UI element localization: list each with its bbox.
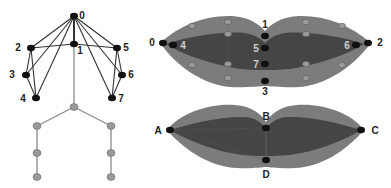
top-lip-label-2: 2 <box>377 37 383 48</box>
top-lip-point-7 <box>261 61 269 68</box>
top-lip-point-1 <box>261 33 269 40</box>
skeleton-label-5: 5 <box>123 42 129 53</box>
bottom-lip-point-D <box>262 157 270 164</box>
skeleton-node-0 <box>70 13 78 19</box>
top-lip-point-5 <box>261 45 269 52</box>
bottom-lip-point-A <box>166 127 174 134</box>
skeleton-edge <box>26 48 31 75</box>
skeleton-node-hip <box>70 104 78 111</box>
top-lip-gray-point <box>188 23 195 29</box>
top-lip-point-2 <box>364 40 372 47</box>
bottom-lip-point-C <box>357 127 365 134</box>
top-lip-label-3: 3 <box>262 86 268 97</box>
top-lip-gray-point <box>302 61 309 67</box>
skeleton-node-r-foot <box>107 174 115 181</box>
skeleton-node-l-hip <box>33 123 41 130</box>
top-lip-label-6: 6 <box>344 40 350 51</box>
top-lip-gray-point <box>338 23 345 29</box>
skeleton-label-0: 0 <box>79 10 85 21</box>
skeleton-node-6 <box>118 72 126 78</box>
skeleton-lower-nodes <box>33 104 115 181</box>
skeleton-node-l-foot <box>33 174 41 181</box>
skeleton-edge <box>37 107 74 126</box>
skeleton-node-l-knee <box>33 150 41 157</box>
skeleton-label-1: 1 <box>77 45 83 56</box>
bottom-lip-point-B <box>262 125 270 132</box>
top-lip-point-0 <box>159 40 167 47</box>
top-lip-label-5: 5 <box>253 43 259 54</box>
bottom-lip-label-D: D <box>262 169 269 180</box>
top-lip-gray-point <box>224 75 231 81</box>
top-lip-label-0: 0 <box>149 37 155 48</box>
skeleton-label-4: 4 <box>20 93 26 104</box>
lip-model-diagram: 01234567 04157362 ABCD <box>0 0 391 188</box>
top-lip-gray-point <box>224 19 231 25</box>
skeleton-node-5 <box>113 45 121 51</box>
top-lip-point-6 <box>352 42 360 49</box>
skeleton-edge <box>36 16 74 98</box>
top-lip-gray-point <box>338 62 345 68</box>
top-lip-gray-point <box>224 61 231 67</box>
top-lip-model: 04157362 <box>149 16 383 97</box>
top-lip-point-4 <box>169 42 177 49</box>
skeleton-node-7 <box>108 95 116 101</box>
skeleton-label-2: 2 <box>15 42 21 53</box>
top-lip-gray-point <box>302 31 309 37</box>
top-lip-gray-point <box>188 62 195 68</box>
top-lip-point-3 <box>261 78 269 85</box>
top-lip-gray-point <box>302 75 309 81</box>
top-lip-label-1: 1 <box>262 19 268 30</box>
skeleton-edge <box>31 44 74 48</box>
skeleton-edge <box>117 48 122 75</box>
top-lip-gray-point <box>302 19 309 25</box>
skeleton-graph: 01234567 <box>9 10 134 181</box>
skeleton-label-7: 7 <box>118 93 124 104</box>
skeleton-node-r-knee <box>107 150 115 157</box>
bottom-lip-label-C: C <box>371 125 378 136</box>
skeleton-node-4 <box>32 95 40 101</box>
top-lip-gray-point <box>224 31 231 37</box>
skeleton-node-3 <box>22 72 30 78</box>
skeleton-edge <box>74 107 111 126</box>
bottom-lip-label-A: A <box>154 125 161 136</box>
skeleton-label-6: 6 <box>128 69 134 80</box>
skeleton-edge <box>31 48 36 98</box>
skeleton-node-2 <box>27 45 35 51</box>
bottom-lip-model: ABCD <box>154 105 378 180</box>
skeleton-edge <box>74 16 112 98</box>
skeleton-node-r-hip <box>107 123 115 130</box>
top-lip-label-7: 7 <box>253 59 259 70</box>
skeleton-edge <box>112 48 117 98</box>
top-lip-label-4: 4 <box>180 40 186 51</box>
skeleton-label-3: 3 <box>9 69 15 80</box>
bottom-lip-label-B: B <box>262 111 269 122</box>
